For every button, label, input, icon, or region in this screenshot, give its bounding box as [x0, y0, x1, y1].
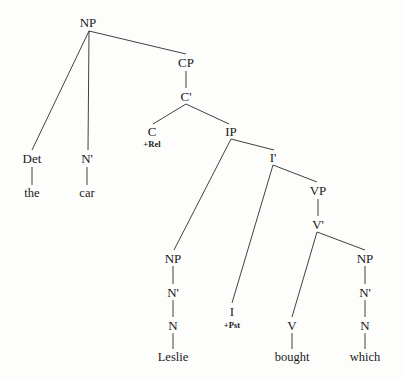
tree-node-np-obj: NP	[357, 252, 374, 265]
tree-node-vp: VP	[310, 184, 327, 197]
tree-edge-cbar-to-ip	[186, 104, 229, 124]
tree-node-the: the	[24, 187, 39, 200]
tree-node-ibar: I'	[270, 151, 277, 164]
tree-node-np-subj: NP	[165, 252, 182, 265]
tree-node-bought: bought	[275, 351, 310, 364]
tree-edge-cbar-to-c	[153, 104, 186, 124]
tree-node-nbar-1: N'	[81, 152, 93, 165]
tree-node-nbar-2: N'	[167, 286, 179, 299]
tree-node-cbar: C'	[180, 90, 191, 103]
tree-edge-ibar-to-vp	[273, 165, 317, 182]
tree-edge-ibar-to-i	[232, 165, 273, 303]
tree-node-ip: IP	[225, 125, 237, 138]
tree-edge-ip-to-np-subj	[174, 139, 231, 250]
tree-node-c: C	[148, 125, 157, 138]
figure-caption-fragment	[0, 364, 402, 378]
tree-edge-ip-to-ibar	[231, 139, 274, 150]
tree-node-nbar-3: N'	[359, 286, 371, 299]
tree-node-vbar: V'	[312, 218, 324, 231]
tree-node-n-2: N	[168, 319, 177, 332]
tree-node-i-feature: +Pst	[224, 321, 241, 330]
tree-edge-np-root-to-det	[32, 31, 89, 150]
syntax-tree-figure: NPDettheN'carCPC'C+RelIPI'NPN'NLeslieI+P…	[0, 0, 402, 378]
tree-node-np-root: NP	[80, 16, 97, 29]
tree-edge-vbar-to-np-obj	[317, 232, 365, 250]
tree-node-i: I	[230, 305, 234, 318]
tree-node-which: which	[350, 351, 381, 364]
tree-node-leslie: Leslie	[158, 351, 189, 364]
tree-edge-np-root-to-nbar-1	[88, 31, 89, 150]
tree-edge-vbar-to-v	[292, 232, 317, 317]
tree-branch-lines	[0, 0, 402, 378]
tree-node-cp: CP	[178, 56, 194, 69]
tree-edge-np-root-to-cp	[89, 31, 186, 54]
tree-node-c-feature: +Rel	[143, 140, 161, 149]
tree-node-car: car	[79, 187, 94, 200]
tree-node-det: Det	[23, 152, 42, 165]
tree-node-n-3: N	[360, 319, 369, 332]
tree-node-v: V	[287, 319, 296, 332]
